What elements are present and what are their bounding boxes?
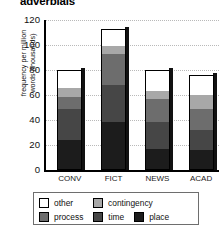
bar-segment-other xyxy=(102,30,125,46)
y-tick-label: 60 xyxy=(29,90,40,100)
legend-swatch-other xyxy=(39,198,49,208)
legend-item-place[interactable]: place xyxy=(134,212,169,222)
legend-swatch-time xyxy=(93,212,103,222)
plot-inner: 020406080100120 CONVFICTNEWSACAD xyxy=(44,20,219,172)
bar-segment-time xyxy=(146,122,169,149)
gridline xyxy=(44,20,219,21)
bar-segment-time xyxy=(190,130,213,150)
legend-label-place: place xyxy=(149,212,169,222)
bar-segment-place xyxy=(190,150,213,170)
bar-segment-time xyxy=(58,109,81,140)
legend-item-other[interactable]: other xyxy=(39,198,73,208)
legend-row: processtimeplace xyxy=(39,210,193,224)
gridline xyxy=(44,45,219,46)
legend-label-other: other xyxy=(54,198,73,208)
y-tick-label: 80 xyxy=(29,65,40,75)
bar-segment-process xyxy=(102,54,125,85)
bar-segment-process xyxy=(190,109,213,130)
stacked-bar[interactable] xyxy=(57,70,82,170)
x-axis-line xyxy=(44,170,219,172)
x-tick-label-acad: ACAD xyxy=(190,174,212,183)
bar-segment-contingency xyxy=(146,91,169,100)
stacked-bar[interactable] xyxy=(101,29,126,171)
stacked-bar[interactable] xyxy=(189,75,214,170)
legend-swatch-contingency xyxy=(93,198,103,208)
y-tick-label: 100 xyxy=(24,40,40,50)
legend-item-process[interactable]: process xyxy=(39,212,83,222)
legend-swatch-place xyxy=(134,212,144,222)
x-tick-label-conv: CONV xyxy=(58,174,81,183)
bar-segment-process xyxy=(58,97,81,109)
bar-segment-place xyxy=(58,140,81,169)
legend-swatch-process xyxy=(39,212,49,222)
bar-segment-place xyxy=(146,149,169,170)
bar-segment-place xyxy=(102,122,125,169)
y-axis-line xyxy=(44,20,46,172)
bar-segment-contingency xyxy=(190,95,213,110)
legend-label-process: process xyxy=(54,212,83,222)
bar-segment-other xyxy=(146,71,169,91)
legend-label-time: time xyxy=(108,212,124,222)
bar-segment-other xyxy=(58,71,81,88)
y-tick-label: 20 xyxy=(29,141,40,151)
page-title: adverbials xyxy=(20,0,75,7)
bar-segment-contingency xyxy=(102,46,125,55)
bar-segment-other xyxy=(190,76,213,94)
x-tick-label-fict: FICT xyxy=(105,174,123,183)
x-tick-label-news: NEWS xyxy=(145,174,169,183)
stacked-bar[interactable] xyxy=(145,70,170,170)
legend-row: othercontingency xyxy=(39,196,193,210)
legend-label-contingency: contingency xyxy=(108,198,153,208)
y-tick-label: 0 xyxy=(35,166,40,176)
chart-figure: adverbials frequency per million words (… xyxy=(0,0,223,227)
plot-area: 020406080100120 CONVFICTNEWSACAD xyxy=(44,20,219,172)
chart-legend: othercontingency processtimeplace xyxy=(33,192,199,225)
legend-item-time[interactable]: time xyxy=(93,212,124,222)
legend-item-contingency[interactable]: contingency xyxy=(93,198,153,208)
bar-segment-contingency xyxy=(58,88,81,97)
bar-segment-process xyxy=(146,99,169,121)
y-tick-label: 120 xyxy=(24,15,40,25)
bar-segment-time xyxy=(102,85,125,122)
y-tick-label: 40 xyxy=(29,115,40,125)
